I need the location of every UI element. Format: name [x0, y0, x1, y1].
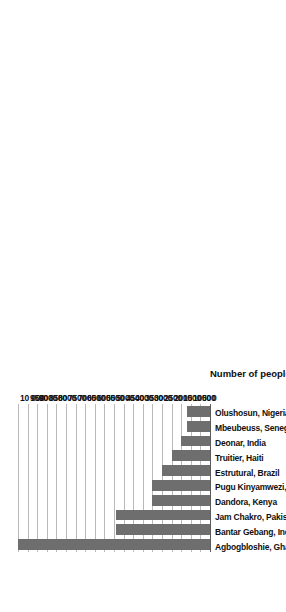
gridline: [47, 404, 48, 552]
gridline: [18, 404, 19, 552]
chart-page: 0500100015002000250030003500400045005000…: [0, 0, 286, 612]
bar: [152, 495, 210, 506]
gridline: [210, 404, 211, 552]
value-axis-title: Number of people living on or around sit…: [210, 368, 286, 379]
gridline: [28, 404, 29, 552]
gridline: [56, 404, 57, 552]
gridline: [66, 404, 67, 552]
gridline: [76, 404, 77, 552]
bar: [181, 436, 210, 447]
gridline: [104, 404, 105, 552]
bar: [152, 480, 210, 491]
bar: [187, 421, 210, 432]
bar: [187, 406, 210, 417]
bar: [162, 465, 210, 476]
bar: [18, 539, 210, 550]
gridline: [95, 404, 96, 552]
gridline: [85, 404, 86, 552]
bar: [116, 524, 210, 535]
chart-stage: 0500100015002000250030003500400045005000…: [0, 0, 286, 612]
bar: [172, 450, 210, 461]
bar: [116, 510, 210, 521]
gridline: [114, 404, 115, 552]
gridline: [37, 404, 38, 552]
